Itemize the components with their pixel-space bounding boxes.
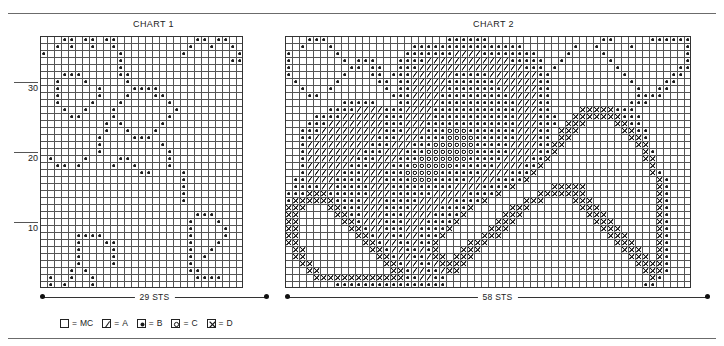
chart-1-title: CHART 1 (133, 19, 174, 29)
legend-item-mc: =MC (60, 319, 93, 328)
chart-2-title: CHART 2 (473, 19, 514, 29)
row-tick-20 (14, 152, 38, 153)
row-label-30: 30 (28, 84, 38, 93)
slash-symbol (102, 319, 111, 328)
chart-1-canvas[interactable] (40, 36, 243, 288)
symbol-legend: =MC=A=B=C=D (60, 316, 233, 330)
row-number-axis: 30 20 10 (14, 36, 38, 288)
chart-2-stitch-count: 58 STS (477, 292, 517, 303)
legend-item-a: =A (102, 319, 128, 328)
chart-1-grid[interactable] (40, 36, 243, 288)
legend-color-name: B (157, 319, 163, 328)
filled-dot-symbol (137, 319, 146, 328)
legend-color-name: D (227, 319, 233, 328)
row-label-10: 10 (28, 224, 38, 233)
row-tick-30 (14, 82, 38, 83)
legend-equals-sign: = (72, 319, 77, 328)
legend-equals-sign: = (183, 319, 188, 328)
chart-2-grid[interactable] (285, 36, 691, 288)
legend-item-b: =B (137, 319, 163, 328)
chart-1-stitch-count: 29 STS (134, 292, 174, 303)
measure-endpoint-left (40, 294, 45, 299)
bottom-divider-rule (8, 338, 716, 339)
measure-endpoint-left (285, 294, 290, 299)
legend-equals-sign: = (114, 319, 119, 328)
row-label-20: 20 (28, 154, 38, 163)
empty-square-symbol (60, 319, 69, 328)
legend-equals-sign: = (219, 319, 224, 328)
chart-2-canvas[interactable] (285, 36, 691, 288)
chart-2-stitch-measure: 58 STS (285, 292, 710, 304)
legend-color-name: C (191, 319, 197, 328)
cross-x-symbol (207, 319, 216, 328)
legend-equals-sign: = (149, 319, 154, 328)
legend-item-c: =C (171, 319, 197, 328)
legend-item-d: =D (207, 319, 233, 328)
top-divider-rule (8, 13, 716, 14)
measure-endpoint-right (705, 294, 710, 299)
row-tick-10 (14, 222, 38, 223)
chart-1-stitch-measure: 29 STS (40, 292, 269, 304)
open-circle-symbol (171, 319, 180, 328)
legend-color-name: A (122, 319, 128, 328)
measure-endpoint-right (264, 294, 269, 299)
legend-color-name: MC (80, 319, 93, 328)
